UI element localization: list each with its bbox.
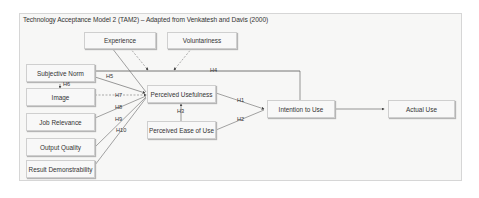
node-experience: Experience: [84, 32, 156, 49]
node-result-demonstrability: Result Demonstrability: [26, 160, 95, 178]
node-actual-use: Actual Use: [388, 100, 455, 118]
label-h1: H1: [237, 97, 244, 103]
label-h4: H4: [210, 67, 217, 73]
node-subjective-norm: Subjective Norm: [26, 64, 95, 82]
node-perceived-usefulness: Perceived Usefulness: [147, 85, 216, 103]
label-h3: H3: [177, 108, 184, 114]
label-h9: H9: [115, 116, 122, 122]
label-h2: H2: [237, 116, 244, 122]
node-output-quality: Output Quality: [26, 138, 95, 156]
node-voluntariness: Voluntariness: [167, 32, 237, 49]
node-image: Image: [26, 88, 95, 106]
node-perceived-ease-of-use: Perceived Ease of Use: [147, 121, 216, 139]
label-h10: H10: [116, 127, 126, 133]
label-h5: H5: [106, 73, 113, 79]
label-h8: H8: [115, 104, 122, 110]
node-intention-to-use: Intention to Use: [267, 100, 335, 118]
label-h6: H6: [63, 81, 70, 87]
label-h7: H7: [115, 92, 122, 98]
node-job-relevance: Job Relevance: [26, 113, 95, 131]
